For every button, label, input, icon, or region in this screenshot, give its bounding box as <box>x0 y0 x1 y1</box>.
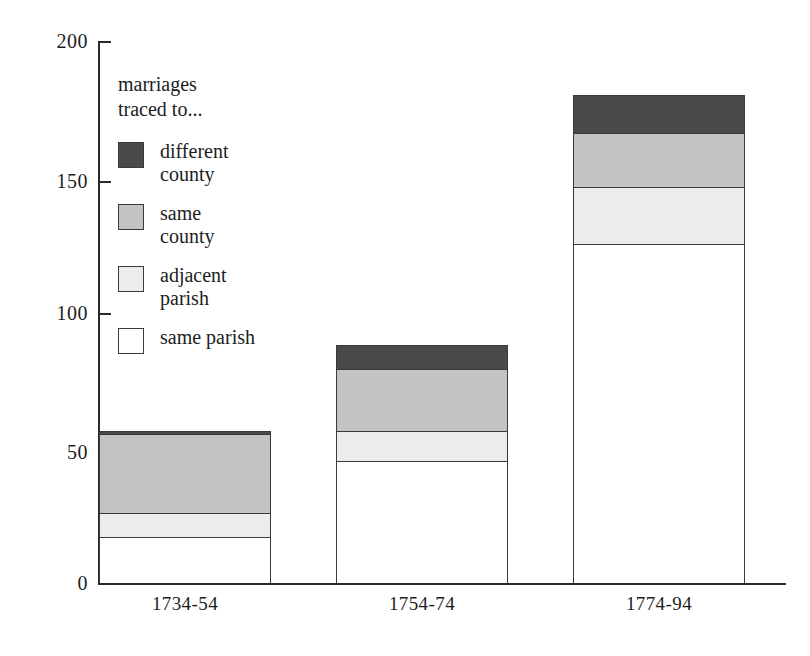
legend-item-adjacent-parish[interactable]: adjacent parish <box>118 264 358 310</box>
legend-item-same-county[interactable]: same county <box>118 202 358 248</box>
stacked-bar-chart: 200 150 100 50 0 1734-54 1754-74 1774-94… <box>0 0 810 656</box>
bar-segment-same-parish[interactable] <box>337 461 507 583</box>
legend-swatch-same-county <box>118 204 144 230</box>
x-axis-label-1734-54: 1734-54 <box>65 592 305 616</box>
legend-swatch-different-county <box>118 142 144 168</box>
bar-segment-same-parish[interactable] <box>574 244 744 583</box>
legend-item-same-parish[interactable]: same parish <box>118 326 358 354</box>
bar-segment-adjacent-parish[interactable] <box>337 431 507 461</box>
bar-segment-same-county[interactable] <box>100 434 270 513</box>
bar-1774-94[interactable] <box>573 95 745 583</box>
bar-segment-different-county[interactable] <box>337 345 507 369</box>
legend-swatch-same-parish <box>118 328 144 354</box>
bar-segment-adjacent-parish[interactable] <box>574 187 744 244</box>
legend-swatch-adjacent-parish <box>118 266 144 292</box>
bar-segment-different-county[interactable] <box>574 95 744 133</box>
bar-segment-same-county[interactable] <box>337 369 507 431</box>
legend-title: marriages traced to... <box>118 72 358 122</box>
x-axis-label-1774-94: 1774-94 <box>539 592 779 616</box>
legend-label-adjacent-parish: adjacent parish <box>160 264 227 310</box>
bar-segment-adjacent-parish[interactable] <box>100 513 270 537</box>
legend-label-same-parish: same parish <box>160 326 255 349</box>
legend-label-same-county: same county <box>160 202 214 248</box>
x-axis-label-1754-74: 1754-74 <box>302 592 542 616</box>
bar-1734-54[interactable] <box>99 431 271 583</box>
legend: marriages traced to... different county … <box>118 72 358 370</box>
legend-item-different-county[interactable]: different county <box>118 140 358 186</box>
bar-segment-same-county[interactable] <box>574 133 744 187</box>
bar-1754-74[interactable] <box>336 345 508 583</box>
legend-label-different-county: different county <box>160 140 229 186</box>
bar-segment-same-parish[interactable] <box>100 537 270 583</box>
